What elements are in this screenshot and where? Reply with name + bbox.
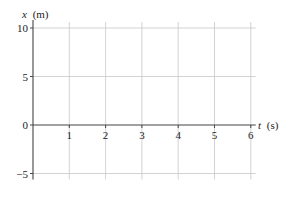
x-tick-label: 4 [175, 129, 181, 141]
grid-lines [33, 22, 256, 180]
x-tick-label: 3 [139, 129, 145, 141]
x-tick-label: 6 [248, 129, 254, 141]
y-axis-variable: x [21, 8, 27, 20]
svg-text:t (s): t (s) [258, 119, 279, 132]
y-axis-unit: (m) [33, 8, 49, 21]
axes [30, 20, 256, 180]
y-tick-label: 5 [23, 71, 29, 83]
x-tick-label: 1 [67, 129, 73, 141]
svg-text:x (m): x (m) [21, 8, 49, 21]
x-axis-label: t (s) [258, 119, 279, 132]
y-tick-label: −5 [16, 168, 28, 180]
y-tick-label: 0 [23, 119, 29, 131]
tick-labels: −50510123456 [16, 22, 254, 180]
x-axis-unit: (s) [267, 119, 279, 132]
y-axis-label: x (m) [21, 8, 49, 21]
y-tick-label: 10 [17, 22, 29, 34]
x-tick-label: 5 [212, 129, 218, 141]
x-axis-variable: t [258, 119, 262, 131]
x-tick-label: 2 [103, 129, 109, 141]
position-time-graph: −50510123456 x (m) t (s) [0, 0, 283, 198]
